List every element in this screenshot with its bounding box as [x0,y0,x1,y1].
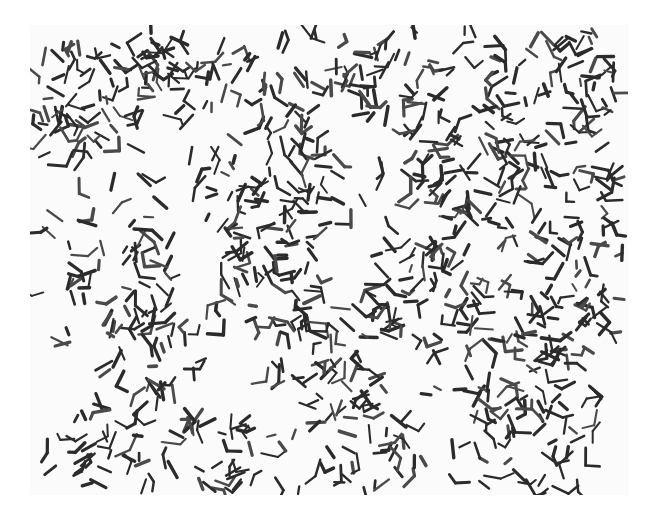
bacterium-cell [275,176,278,187]
bacterium-cell [569,427,576,433]
bacterium-cell [108,450,111,458]
bacterium-cell [336,333,337,344]
bacterium-cell [165,256,172,270]
bacterium-cell [306,139,313,142]
bacterium-cell [86,462,91,467]
bacterium-cell [464,391,479,394]
bacterium-cell [396,205,410,209]
bacterium-cell [134,388,145,395]
bacterium-cell [602,99,606,106]
bacterium-cell [580,171,594,174]
bacterium-cell [200,361,205,369]
bacterium-cell [224,490,226,495]
bacterium-cell [580,79,581,86]
bacterium-cell [612,166,622,175]
bacterium-cell [83,294,85,304]
bacterium-cell [498,227,506,228]
bacterium-cell [133,435,142,436]
bacterium-cell [228,192,232,200]
bacterium-cell [134,116,137,128]
bacterium-cell [521,396,528,400]
bacterium-cell [114,107,120,116]
bacterium-cell [30,147,33,149]
bacterium-cell [95,141,101,148]
bacterium-cell [161,344,164,352]
bacterium-cell [331,171,343,178]
bacterium-cell [445,170,463,173]
bacterium-cell [353,305,367,317]
bacterium-cell [144,421,155,425]
bacterium-cell [308,185,310,201]
bacterium-cell [197,421,198,430]
bacterium-cell [539,362,551,365]
bacterium-cell [304,374,317,383]
bacterium-cell [596,143,609,152]
page: Grayscale micrograph showing many dark r… [0,0,656,525]
bacterium-cell [569,42,576,55]
bacterium-cell [429,267,442,269]
bacterium-cell [551,351,558,352]
bacterium-cell [405,301,418,302]
bacterium-cell [167,233,174,248]
bacterium-cell [495,36,506,49]
bacterium-cell [331,404,336,420]
bacterium-cell [421,394,431,395]
bacterium-cell [331,80,332,96]
bacterium-cell [417,81,418,88]
bacterium-cell [547,285,552,293]
bacterium-cell [100,241,104,255]
bacterium-cell [279,365,280,383]
bacterium-cell [207,187,216,190]
bacterium-cell [515,359,524,361]
bacterium-cell [532,204,535,219]
bacterium-cell [566,92,573,94]
bacterium-cell [434,334,441,340]
bacterium-cell [592,176,607,179]
bacterium-cell [591,174,593,183]
bacterium-cell [279,442,286,451]
micrograph-image: Grayscale micrograph showing many dark r… [30,25,628,495]
bacterium-cell [88,248,97,256]
bacterium-cell [470,316,473,335]
bacterium-cell [172,275,180,278]
bacterium-cell [45,466,56,475]
bacterium-cell [149,474,154,482]
bacterium-cell [357,453,360,469]
bacterium-cell [312,38,325,42]
bacterium-cell [459,442,469,447]
bacterium-cell [266,368,268,382]
bacterium-cell [589,37,592,44]
bacterium-cell [138,88,139,96]
bacterium-cell [556,307,562,308]
bacterium-cell [555,386,561,389]
bacterium-cell [88,136,94,142]
bacterium-cell [516,385,518,395]
bacterium-cell [107,333,113,337]
bacterium-cell [154,346,160,360]
bacterium-cell [44,98,53,99]
bacterium-cell [165,273,171,280]
bacterium-cell [434,348,447,353]
bacterium-cell [418,300,427,305]
bacterium-cell [317,394,323,399]
bacterium-cell [99,260,100,270]
bacterium-cell [553,486,569,494]
bacterium-cell [498,387,507,397]
bacterium-cell [351,364,358,381]
bacterium-cell [344,362,345,378]
bacterium-cell [418,159,423,164]
bacterium-cell [75,157,84,170]
bacterium-cell [292,291,299,300]
bacterium-cell [101,60,110,73]
bacterium-cell [252,99,261,104]
bacterium-cell [30,289,32,296]
bacterium-cell [237,95,240,107]
bacterium-cell [100,370,110,378]
bacterium-cell [88,113,100,123]
bacterium-cell [199,478,203,489]
bacterium-cell [401,239,410,247]
bacterium-cell [401,327,402,337]
bacterium-cell [372,253,381,256]
bacterium-cell [447,176,456,184]
bacterium-cell [336,344,345,346]
